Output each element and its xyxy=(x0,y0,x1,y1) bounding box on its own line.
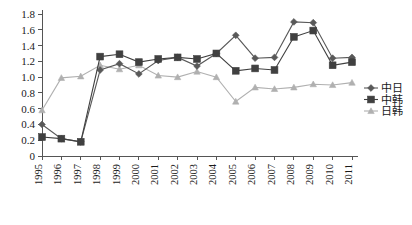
x-tick-label: 1997 xyxy=(72,164,83,185)
y-tick-label: 1.0 xyxy=(21,71,35,83)
data-point-marker xyxy=(232,67,239,74)
data-point-marker xyxy=(290,33,297,40)
legend-label: 中韩 xyxy=(381,93,403,106)
x-tick-label: 2011 xyxy=(343,164,354,185)
x-tick-label: 1999 xyxy=(111,164,122,185)
legend-item-日韩[interactable]: 日韩 xyxy=(364,104,403,117)
x-tick-label: 2005 xyxy=(227,164,238,185)
x-tick-label: 1995 xyxy=(33,164,44,185)
line-chart-container: 00.20.40.60.81.01.21.41.61.8 19951996199… xyxy=(0,0,412,225)
x-tick-label: 2008 xyxy=(285,164,296,185)
data-point-marker xyxy=(349,59,356,66)
data-point-marker xyxy=(39,107,45,113)
y-tick-label: 0.8 xyxy=(21,87,35,99)
series-中日 xyxy=(39,18,356,145)
x-tick-label: 2004 xyxy=(207,163,218,185)
series-line xyxy=(42,22,352,142)
x-axis: 1995199619971998199920002001200220032004… xyxy=(33,156,358,185)
data-point-marker xyxy=(329,62,336,69)
x-tick-label: 2010 xyxy=(324,164,335,185)
y-tick-label: 1.4 xyxy=(21,40,35,52)
data-point-marker xyxy=(174,54,181,61)
legend-item-中韩[interactable]: 中韩 xyxy=(364,93,403,106)
data-point-marker xyxy=(135,71,142,78)
x-tick-label: 1996 xyxy=(52,164,63,185)
data-point-marker xyxy=(290,18,297,25)
y-tick-label: 0.6 xyxy=(21,103,35,115)
data-point-marker xyxy=(310,27,317,34)
x-tick-label: 2000 xyxy=(130,164,141,185)
x-tick-label: 2003 xyxy=(188,164,199,185)
data-point-marker xyxy=(39,134,46,141)
series-中韩 xyxy=(39,27,356,145)
y-tick-label: 1.6 xyxy=(21,24,35,36)
legend-marker-icon xyxy=(368,96,375,103)
data-point-marker xyxy=(252,65,259,72)
x-tick-label: 2007 xyxy=(266,164,277,185)
legend-label: 日韩 xyxy=(381,104,403,117)
trade-intensity-line-chart: 00.20.40.60.81.01.21.41.61.8 19951996199… xyxy=(0,0,412,225)
data-point-marker xyxy=(58,135,65,142)
chart-legend: 中日中韩日韩 xyxy=(364,82,403,117)
x-tick-label: 2002 xyxy=(169,164,180,185)
legend-label: 中日 xyxy=(381,82,403,94)
data-point-marker xyxy=(310,19,317,26)
data-point-marker xyxy=(77,138,84,145)
y-tick-label: 1.2 xyxy=(21,55,35,67)
data-point-marker xyxy=(194,63,201,70)
y-tick-label: 0.4 xyxy=(21,118,35,130)
data-point-marker xyxy=(271,54,278,61)
y-tick-label: 0 xyxy=(30,150,36,162)
data-point-marker xyxy=(97,53,104,60)
x-tick-label: 2006 xyxy=(246,164,257,185)
x-tick-label: 2001 xyxy=(149,164,160,185)
data-point-marker xyxy=(116,60,123,67)
y-tick-label: 1.8 xyxy=(21,8,35,20)
y-tick-label: 0.2 xyxy=(21,134,35,146)
series-line xyxy=(42,31,352,142)
data-point-marker xyxy=(155,56,162,63)
data-series-group xyxy=(39,18,356,145)
data-point-marker xyxy=(271,67,278,74)
data-point-marker xyxy=(135,59,142,66)
x-tick-label: 1998 xyxy=(91,164,102,185)
data-point-marker xyxy=(349,79,355,85)
data-point-marker xyxy=(116,51,123,58)
data-point-marker xyxy=(194,56,201,63)
data-point-marker xyxy=(213,50,220,57)
legend-item-中日[interactable]: 中日 xyxy=(364,82,403,94)
x-tick-label: 2009 xyxy=(304,164,315,185)
legend-marker-icon xyxy=(368,85,375,92)
